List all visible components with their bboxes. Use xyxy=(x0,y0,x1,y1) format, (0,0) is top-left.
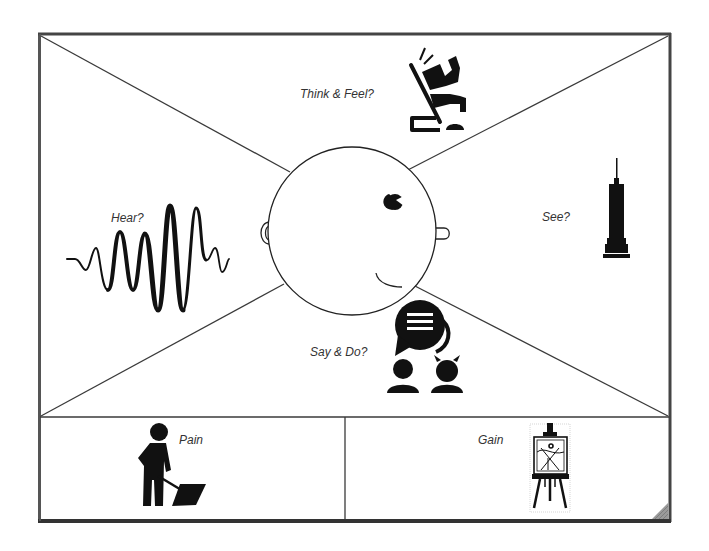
say-do-label: Say & Do? xyxy=(310,345,367,359)
pain-label: Pain xyxy=(179,433,203,447)
gain-label: Gain xyxy=(478,433,503,447)
see-label: See? xyxy=(542,210,570,224)
empathy-map-diagram xyxy=(0,0,709,551)
hear-label: Hear? xyxy=(111,211,144,225)
think-feel-label: Think & Feel? xyxy=(300,87,374,101)
